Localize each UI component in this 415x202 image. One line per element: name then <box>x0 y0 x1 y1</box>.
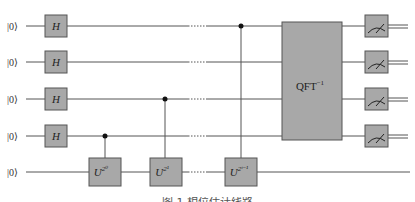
control-dot-icon <box>103 134 108 139</box>
meter-icon <box>365 15 388 37</box>
qubit-label-5: |0⟩ <box>7 167 18 178</box>
measurement-1 <box>365 15 408 37</box>
unitary-exponent: 2¹ <box>163 165 169 173</box>
qubit-labels: |0⟩ |0⟩ |0⟩ |0⟩ |0⟩ <box>7 21 18 178</box>
control-dot-icon <box>239 24 244 29</box>
qft-label: QFT <box>296 80 317 92</box>
controlled-u-gate-2: U2¹ <box>150 97 182 187</box>
measurement-3 <box>365 88 408 110</box>
hadamard-gate-2: H <box>45 51 67 73</box>
qubit-label-3: |0⟩ <box>7 94 18 105</box>
figure-caption: 图 1 相位估计线路 <box>0 197 415 202</box>
qubit-label-1: |0⟩ <box>7 21 18 32</box>
qubit-label-4: |0⟩ <box>7 131 18 142</box>
measurement-4 <box>365 125 408 147</box>
controlled-u-gate-3: U2ᵗ⁻¹ <box>225 24 257 187</box>
meter-icon <box>365 88 388 110</box>
hadamard-label: H <box>51 93 61 105</box>
hadamard-label: H <box>51 56 61 68</box>
meter-icon <box>365 51 388 73</box>
hadamard-gate-1: H <box>45 15 67 37</box>
hadamard-gate-3: H <box>45 88 67 110</box>
unitary-exponent: 2⁰ <box>102 165 109 173</box>
unitary-exponent: 2ᵗ⁻¹ <box>238 165 248 173</box>
measurement-2 <box>365 51 408 73</box>
hadamard-label: H <box>51 20 61 32</box>
wires <box>26 26 410 172</box>
measurements <box>365 15 408 147</box>
controlled-u-gate-1: U2⁰ <box>89 134 121 187</box>
meter-icon <box>365 125 388 147</box>
quantum-circuit: |0⟩ |0⟩ |0⟩ |0⟩ |0⟩ H H <box>0 0 415 202</box>
qft-exponent: −1 <box>317 79 325 87</box>
hadamard-gate-4: H <box>45 125 67 147</box>
inverse-qft-block: QFT−1 <box>282 22 342 140</box>
qubit-label-2: |0⟩ <box>7 57 18 68</box>
control-dot-icon <box>163 97 168 102</box>
hadamard-gates: H H H H <box>45 15 67 147</box>
hadamard-label: H <box>51 130 61 142</box>
